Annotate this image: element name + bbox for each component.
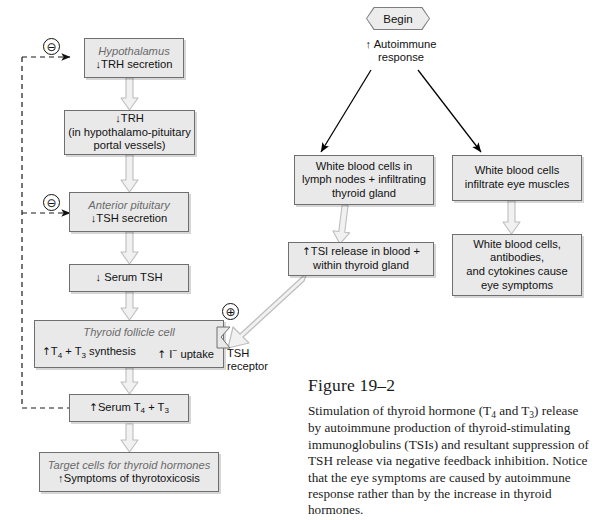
block-arrow-trh-to-pituitary [121,155,138,192]
node-serum-tsh-line1: ↓ Serum TSH [96,271,163,285]
node-wbc-eye-line2: infiltrate eye muscles [465,178,569,192]
block-arrow-follicle-to-serumt4t3 [121,368,138,394]
block-arrow-pituitary-to-serumtsh [121,232,138,264]
node-wbc-eye-line1: White blood cells [475,164,560,178]
minus-glyph-lower: ⊖ [46,197,56,209]
node-trh-line3: portal vessels) [93,139,165,153]
label-tsh-receptor-line1: TSH [227,347,249,359]
node-target-cells-line1: ↑Symptoms of thyrotoxicosis [58,472,200,486]
node-wbc-lymph-line3: thyroid gland [332,187,396,201]
figure-number: Figure 19–2 [308,375,590,396]
thin-arrow-autoimmune-to-wbc-eye [418,70,481,152]
node-trh-line2: (in hypothalamo-pituitary [68,126,191,140]
block-arrow-wbceye-to-eyesymptoms [503,201,520,234]
node-wbc-eye-muscles[interactable]: White blood cells infiltrate eye muscles [452,155,582,201]
node-anterior-pituitary-header: Anterior pituitary [88,198,169,212]
node-hypothalamus[interactable]: Hypothalamus ↓TRH secretion [84,38,184,78]
node-wbc-lymph-nodes[interactable]: White blood cells in lymph nodes + infil… [294,155,434,205]
node-begin[interactable]: Begin [367,8,429,29]
node-autoimmune-line1: ↑ Autoimmune [366,38,437,50]
block-arrow-wbclymph-to-tsi [331,204,353,245]
node-target-cells-header: Target cells for thyroid hormones [48,458,211,472]
figure-caption-text: Stimulation of thyroid hormone (T4 and T… [308,403,590,519]
minus-sign-hypothalamus: ⊖ [43,38,60,55]
node-thyroid-follicle-cell[interactable]: Thyroid follicle cell ↑T4 + T3 synthesis… [34,320,224,368]
node-tsi-release[interactable]: ↑TSI release in blood + within thyroid g… [288,242,434,276]
node-serum-t4-t3-line1: ↑Serum T4 + T3 [89,401,169,416]
node-wbc-lymph-line1: White blood cells in [316,160,412,174]
label-tsh-receptor-line2: receptor [227,360,268,372]
node-tsi-release-line1: ↑TSI release in blood + [302,245,420,259]
node-thyroid-follicle-header: Thyroid follicle cell [83,325,174,339]
figure-caption-block: Figure 19–2 Stimulation of thyroid hormo… [308,375,590,519]
node-anterior-pituitary-line1: ↓TSH secretion [91,212,167,226]
node-thyroid-follicle-left-label: ↑T4 + T3 synthesis [42,345,136,360]
plus-sign-tsh-receptor: ⊕ [222,303,239,320]
node-hypothalamus-header: Hypothalamus [98,44,170,58]
node-eye-symptoms-line3: and cytokines cause [466,265,567,279]
thin-arrow-autoimmune-to-wbc-lymph [321,70,371,152]
node-begin-label: Begin [383,13,412,25]
node-trh[interactable]: ↓TRH (in hypothalamo-pituitary portal ve… [64,110,195,155]
plus-glyph: ⊕ [225,306,235,318]
node-eye-symptoms[interactable]: White blood cells, antibodies, and cytok… [452,234,582,296]
node-autoimmune-line2: response [378,51,424,63]
node-hypothalamus-line1: ↓TRH secretion [95,58,172,72]
node-anterior-pituitary[interactable]: Anterior pituitary ↓TSH secretion [69,192,189,232]
minus-glyph-upper: ⊖ [46,41,56,53]
node-target-cells[interactable]: Target cells for thyroid hormones ↑Sympt… [39,452,219,492]
block-arrow-tsi-to-tsh-receptor [228,273,307,348]
node-tsi-release-line2: within thyroid gland [313,259,409,273]
block-arrow-serumt4t3-to-target [121,424,138,452]
figure-canvas: Hypothalamus ↓TRH secretion ↓TRH (in hyp… [0,0,601,520]
node-wbc-lymph-line2: lymph nodes + infiltrating [302,173,426,187]
label-tsh-receptor: TSH receptor [227,347,283,374]
node-serum-tsh[interactable]: ↓ Serum TSH [69,264,189,292]
node-autoimmune-response: ↑ Autoimmune response [347,38,455,65]
node-thyroid-follicle-right-label: ↑ I− uptake [157,344,214,361]
node-trh-line1: ↓TRH [115,112,144,126]
minus-sign-pituitary: ⊖ [43,194,60,211]
block-arrow-serumtsh-to-follicle [121,292,138,320]
node-eye-symptoms-line1: White blood cells, [473,238,561,252]
block-arrow-hypothalamus-to-trh [121,78,138,110]
node-eye-symptoms-line4: eye symptoms [481,279,553,293]
node-serum-t4-t3[interactable]: ↑Serum T4 + T3 [69,394,189,422]
node-eye-symptoms-line2: antibodies, [490,251,544,265]
